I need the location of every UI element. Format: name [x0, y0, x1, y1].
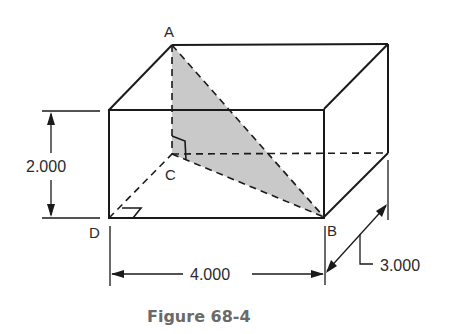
edge-top-back	[172, 44, 388, 45]
right-angle-mark-d	[122, 208, 141, 218]
height-dimension-label: 2.000	[26, 158, 66, 175]
point-label-a: A	[164, 23, 174, 40]
box-diagram: 2.000 4.000 3.000 A B C D Figure 68-4	[0, 0, 454, 334]
point-label-c: C	[165, 166, 176, 183]
width-dimension-label: 4.000	[190, 266, 230, 283]
depth-dimension-label: 3.000	[380, 257, 420, 274]
point-label-d: D	[89, 224, 100, 241]
edge-bottom-right	[324, 153, 388, 217]
hidden-edges	[109, 45, 388, 218]
figure-caption: Figure 68-4	[147, 307, 251, 326]
point-label-b: B	[327, 222, 337, 239]
visible-edges	[109, 44, 388, 218]
edge-top-left	[109, 45, 172, 110]
edge-top-right	[324, 44, 388, 109]
depth-dimension	[326, 160, 388, 273]
